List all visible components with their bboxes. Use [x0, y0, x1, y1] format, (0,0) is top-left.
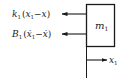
displacement-label: x1: [109, 55, 118, 66]
free-body-diagram: m1 k1(x1−x) B1(ẋ1−ẋ) x1: [0, 0, 125, 79]
spring-force-label: k1(x1−x): [12, 9, 50, 20]
damper-force-label: B1(ẋ1−ẋ): [11, 29, 51, 40]
mass-label: m1: [95, 20, 108, 32]
